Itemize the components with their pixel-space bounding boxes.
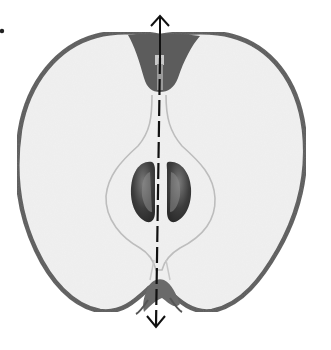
apple-cross-section-diagram [0,0,331,350]
stray-dot [0,29,4,33]
